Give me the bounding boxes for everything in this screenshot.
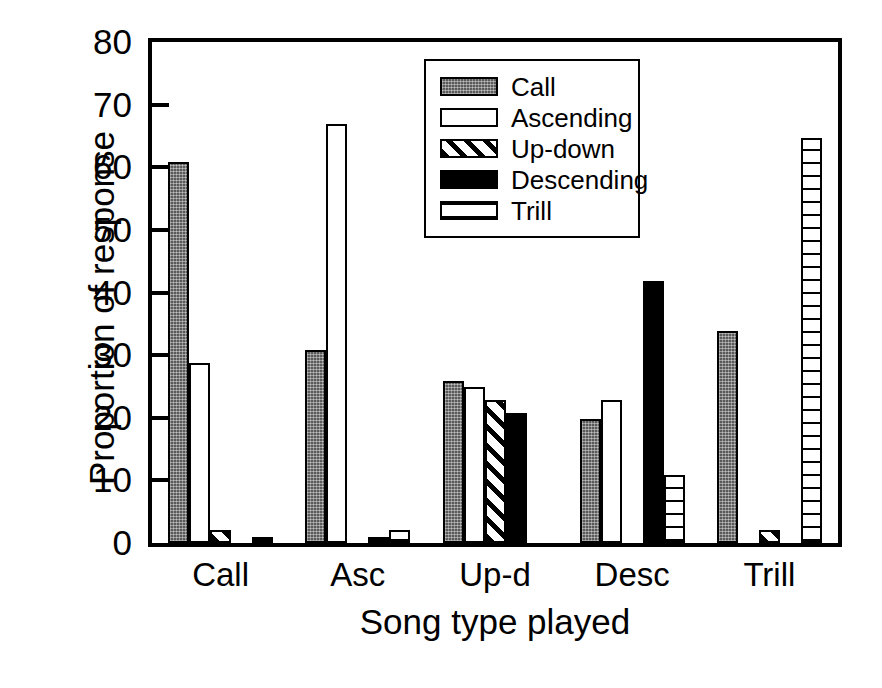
legend-item-up-down: Up-down — [426, 133, 638, 164]
bar-desc-trill — [664, 475, 685, 543]
legend-item-descending: Descending — [426, 164, 638, 195]
legend-swatch-trill — [440, 201, 498, 220]
bar-up-d-call — [443, 381, 464, 543]
bar-up-d-descending — [506, 413, 527, 543]
x-tick-label-trill: Trill — [694, 556, 844, 594]
x-axis-title: Song type played — [148, 602, 842, 642]
legend-label: Call — [511, 74, 556, 100]
bar-desc-descending — [643, 281, 664, 543]
y-tick-label: 0 — [36, 525, 132, 560]
x-tick-label-asc: Asc — [283, 556, 433, 594]
y-tick-label: 60 — [36, 149, 132, 184]
legend-item-call: Call — [426, 71, 638, 102]
bar-call-up-down — [210, 530, 231, 543]
legend-label: Up-down — [511, 136, 615, 162]
legend-swatch-call — [440, 77, 498, 96]
x-tick-label-call: Call — [146, 556, 296, 594]
bar-chart-figure: Proportion of response 01020304050607080… — [0, 0, 882, 688]
bar-trill-call — [717, 331, 738, 543]
x-tick-label-desc: Desc — [557, 556, 707, 594]
bar-call-call — [168, 162, 189, 543]
legend-item-ascending: Ascending — [426, 102, 638, 133]
y-axis-tick-labels: 01020304050607080 — [22, 0, 132, 688]
bar-asc-ascending — [326, 124, 347, 543]
chart-legend: CallAscendingUp-downDescendingTrill — [424, 59, 640, 238]
bar-call-ascending — [189, 363, 210, 543]
legend-swatch-descending — [440, 170, 498, 189]
bar-asc-trill — [389, 530, 410, 543]
bar-desc-ascending — [601, 400, 622, 543]
y-tick-label: 40 — [36, 275, 132, 310]
bar-up-d-ascending — [464, 387, 485, 543]
x-tick-label-up-d: Up-d — [420, 556, 570, 594]
y-tick-label: 10 — [36, 462, 132, 497]
legend-label: Trill — [511, 198, 552, 224]
y-tick-label: 20 — [36, 400, 132, 435]
legend-swatch-ascending — [440, 108, 498, 127]
bar-call-trill — [252, 537, 273, 543]
legend-swatch-up-down — [440, 139, 498, 158]
bar-asc-descending — [368, 537, 389, 543]
x-axis-tick-labels: CallAscUp-dDescTrill — [148, 556, 842, 600]
legend-label: Ascending — [511, 105, 632, 131]
y-tick-label: 80 — [36, 24, 132, 59]
legend-label: Descending — [511, 167, 648, 193]
bar-desc-call — [580, 419, 601, 543]
y-tick-label: 70 — [36, 87, 132, 122]
bar-up-d-up-down — [485, 400, 506, 543]
bar-trill-trill — [801, 138, 822, 543]
y-tick-label: 30 — [36, 337, 132, 372]
bar-asc-call — [305, 350, 326, 544]
legend-item-trill: Trill — [426, 195, 638, 226]
bar-trill-up-down — [759, 530, 780, 543]
y-tick-label: 50 — [36, 212, 132, 247]
